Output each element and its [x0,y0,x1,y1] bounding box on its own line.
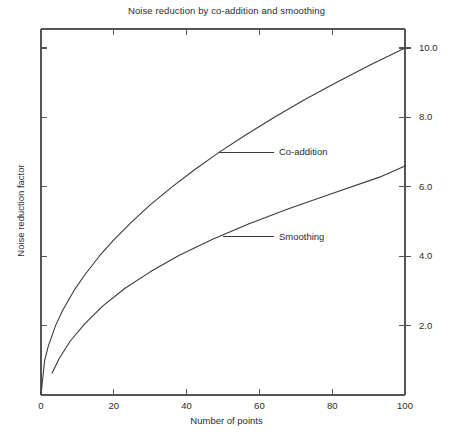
annotation-label: Co-addition [279,146,328,157]
x-tick-label: 60 [239,400,279,411]
plot-area [0,0,453,438]
x-axis-label: Number of points [0,415,453,426]
y-tick-label: 6.0 [419,181,453,192]
y-tick-label: 10.0 [419,42,453,53]
chart-title: Noise reduction by co-addition and smoot… [0,5,453,16]
annotation-label: Smoothing [279,231,324,242]
curve-smoothing [52,166,405,373]
chart-figure: Noise reduction by co-addition and smoot… [0,0,453,438]
x-tick-label: 0 [21,400,61,411]
x-tick-label: 40 [167,400,207,411]
x-tick-label: 100 [385,400,425,411]
curve-co-addition [41,48,405,395]
annotation-leaders [219,152,274,237]
y-tick-label: 2.0 [419,320,453,331]
y-tick-label: 4.0 [419,250,453,261]
y-tick-label: 8.0 [419,111,453,122]
x-tick-label: 20 [94,400,134,411]
axes-group [41,29,411,395]
y-axis-label: Noise reduction factor [15,131,26,291]
x-tick-label: 80 [312,400,352,411]
curves-group [41,48,405,395]
